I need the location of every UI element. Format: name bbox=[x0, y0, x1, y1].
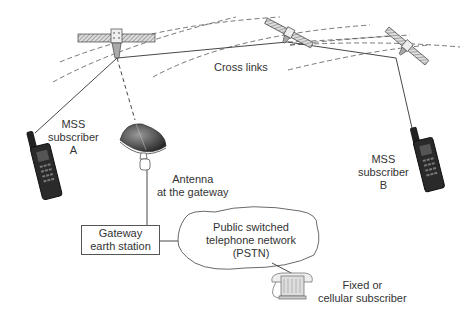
satellite-2-icon bbox=[261, 16, 314, 55]
satellite-3-icon bbox=[380, 25, 430, 71]
fixed-subscriber-label: Fixed or cellular subscriber bbox=[318, 279, 407, 305]
mss-phone-b-icon bbox=[410, 123, 445, 192]
antenna-label: Antenna at the gateway bbox=[157, 173, 229, 199]
subscriber-b-label: MSS subscriber B bbox=[358, 153, 409, 192]
pstn-label: Public switched telephone network (PSTN) bbox=[184, 221, 318, 260]
desk-telephone-icon bbox=[272, 273, 313, 299]
subscriber-a-label: MSS subscriber A bbox=[48, 118, 99, 157]
gateway-earth-station-box: Gateway earth station bbox=[81, 225, 160, 255]
cross-links-label: Cross links bbox=[214, 61, 268, 74]
feeder-link bbox=[117, 58, 135, 120]
